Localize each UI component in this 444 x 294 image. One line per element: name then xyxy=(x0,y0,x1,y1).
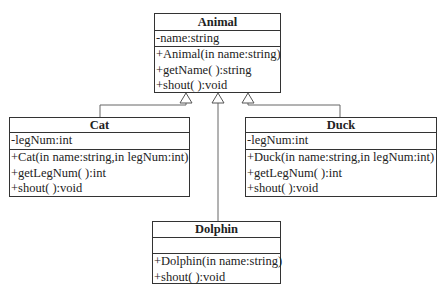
operation: +shout( ):void xyxy=(156,78,280,94)
attribute: -legNum:int xyxy=(11,133,189,148)
class-attributes xyxy=(153,238,280,254)
class-cat: Cat -legNum:int +Cat(in name:string,in l… xyxy=(9,117,190,197)
class-duck: Duck -legNum:int +Duck(in name:string,in… xyxy=(245,117,437,197)
class-name: Cat xyxy=(10,118,189,133)
duck-to-animal-edge xyxy=(248,103,340,117)
cat-to-animal-edge xyxy=(100,103,186,117)
class-operations: +Animal(in name:string) +getName( ):stri… xyxy=(155,47,280,94)
operation: +getLegNum( ):int xyxy=(247,166,436,182)
class-attributes: -name:string xyxy=(155,31,280,47)
attribute: -name:string xyxy=(156,31,280,46)
class-attributes: -legNum:int xyxy=(10,133,189,150)
class-dolphin: Dolphin +Dolphin(in name:string) +shout(… xyxy=(152,221,281,284)
class-name: Dolphin xyxy=(153,222,280,238)
operation: +Duck(in name:string,in legNum:int) xyxy=(247,150,436,166)
operation: +shout( ):void xyxy=(247,181,436,197)
inheritance-arrow-icon xyxy=(212,93,224,103)
operation: +shout( ):void xyxy=(11,181,189,197)
operation: +Animal(in name:string) xyxy=(156,47,280,63)
class-animal: Animal -name:string +Animal(in name:stri… xyxy=(154,13,281,93)
class-operations: +Cat(in name:string,in legNum:int) +getL… xyxy=(10,150,189,197)
class-operations: +Duck(in name:string,in legNum:int) +get… xyxy=(246,150,436,197)
attribute: -legNum:int xyxy=(247,133,436,148)
operation: +Dolphin(in name:string) xyxy=(154,254,280,270)
operation: +shout( ):void xyxy=(154,270,280,286)
operation: +Cat(in name:string,in legNum:int) xyxy=(11,150,189,166)
operation: +getLegNum( ):int xyxy=(11,166,189,182)
operation: +getName( ):string xyxy=(156,63,280,79)
inheritance-arrow-icon xyxy=(242,93,254,103)
class-operations: +Dolphin(in name:string) +shout( ):void xyxy=(153,254,280,285)
class-attributes: -legNum:int xyxy=(246,133,436,150)
inheritance-arrow-icon xyxy=(180,93,192,103)
class-name: Duck xyxy=(246,118,436,133)
class-name: Animal xyxy=(155,14,280,31)
